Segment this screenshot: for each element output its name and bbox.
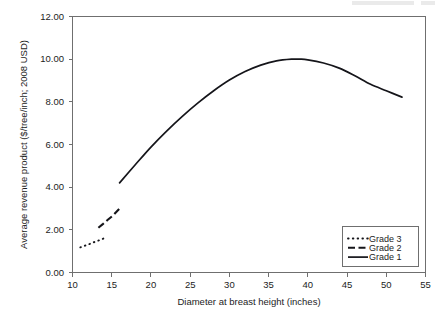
scan-artifact (352, 1, 414, 5)
x-axis-tick-labels: 10 15 20 25 30 35 40 45 50 55 (67, 279, 431, 290)
y-tick-label: 8.00 (46, 96, 65, 107)
x-axis-title: Diameter at breast height (inches) (177, 296, 320, 307)
x-tick-label: 55 (420, 279, 431, 290)
x-tick-label: 10 (67, 279, 78, 290)
series-line-grade-1 (120, 59, 402, 183)
scan-artifact-secondary (421, 1, 435, 5)
x-tick-label: 25 (185, 279, 196, 290)
series-line-grade-2 (98, 209, 119, 228)
series-line-grade-3 (80, 238, 104, 247)
y-axis-tick-labels: 0.00 2.00 4.00 6.00 8.00 10.00 12.00 (40, 11, 64, 278)
chart-legend: Grade 3 Grade 2 Grade 1 (343, 227, 419, 267)
y-axis-ticks (69, 17, 73, 273)
x-tick-label: 20 (146, 279, 157, 290)
x-tick-label: 45 (342, 279, 353, 290)
y-tick-label: 6.00 (46, 139, 65, 150)
y-tick-label: 4.00 (46, 181, 65, 192)
x-tick-label: 40 (303, 279, 314, 290)
legend-label-grade-1: Grade 1 (369, 252, 402, 262)
y-tick-label: 2.00 (46, 224, 65, 235)
chart-figure: 0.00 2.00 4.00 6.00 8.00 10.00 12.00 10 … (0, 0, 445, 319)
x-tick-label: 30 (224, 279, 235, 290)
y-axis-title: Average revenue product ($/tree/inch; 20… (18, 40, 29, 249)
y-tick-label: 0.00 (46, 267, 65, 278)
x-axis-ticks (73, 273, 426, 277)
y-tick-label: 10.00 (40, 53, 64, 64)
y-tick-label: 12.00 (40, 11, 64, 22)
x-tick-label: 35 (263, 279, 274, 290)
x-tick-label: 50 (381, 279, 392, 290)
average-revenue-product-chart: 0.00 2.00 4.00 6.00 8.00 10.00 12.00 10 … (0, 0, 445, 319)
x-tick-label: 15 (106, 279, 117, 290)
